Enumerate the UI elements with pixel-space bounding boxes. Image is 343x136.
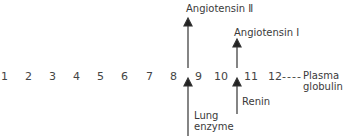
angiotensin-i-arrowhead-icon	[233, 39, 241, 47]
residue-5: 5	[97, 70, 104, 83]
angiotensin-ii-arrowhead-icon	[184, 18, 192, 26]
plasma-label: Plasma	[303, 70, 339, 81]
angiotensin-ii-label: Angiotensin Ⅱ	[186, 3, 253, 14]
residue-6: 6	[121, 70, 128, 83]
lung-enzyme-arrowhead-icon	[184, 78, 192, 86]
renin-arrowhead-icon	[233, 78, 241, 86]
residue-3: 3	[49, 70, 56, 83]
residue-9: 9	[195, 70, 202, 83]
lung-label: Lung	[194, 110, 218, 121]
tail-connector: ----	[282, 70, 302, 83]
residue-8: 8	[170, 70, 177, 83]
renin-label: Renin	[242, 96, 270, 107]
arrows-layer	[0, 0, 343, 136]
residue-11: 11	[244, 70, 258, 83]
residue-10: 10	[214, 70, 228, 83]
enzyme-label: enzyme	[194, 121, 234, 132]
globulin-label: globulin	[303, 81, 343, 92]
residue-4: 4	[73, 70, 80, 83]
angiotensin-i-label: Angiotensin I	[234, 27, 299, 38]
residue-2: 2	[25, 70, 32, 83]
residue-12: 12	[268, 70, 282, 83]
residue-7: 7	[146, 70, 153, 83]
residue-1: 1	[1, 70, 8, 83]
